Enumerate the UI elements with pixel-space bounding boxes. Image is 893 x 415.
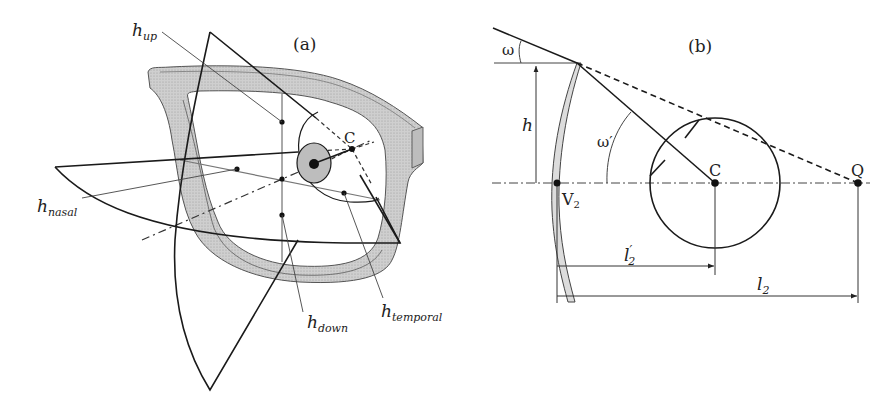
spectacle-frame xyxy=(148,66,423,283)
panel-b: (b) ω ω′ h C Q V2 l′2 l2 xyxy=(492,28,870,303)
omega-angle-arc xyxy=(519,41,521,63)
l2-label: l2 xyxy=(757,274,769,297)
refracted-ray xyxy=(577,63,715,183)
panel-a-label: (a) xyxy=(293,34,316,54)
point-q xyxy=(854,179,862,187)
point-q-label: Q xyxy=(851,161,864,180)
label-h-temporal: htemporal xyxy=(381,301,443,324)
l2-prime-label: l′2 xyxy=(624,244,635,268)
panel-a: (a) C hup hnasal hdown htemporal xyxy=(37,20,443,390)
label-h-nasal: hnasal xyxy=(37,196,78,219)
frame-temple-end xyxy=(412,127,423,168)
point-c-b xyxy=(711,179,719,187)
figure-canvas: (a) C hup hnasal hdown htemporal xyxy=(0,0,893,415)
omega-prime-label: ω′ xyxy=(597,133,613,151)
point-c-label-a: C xyxy=(344,129,355,147)
point-center xyxy=(279,176,284,181)
omega-label: ω xyxy=(502,41,514,59)
height-label: h xyxy=(522,115,533,135)
label-h-down: hdown xyxy=(307,312,348,335)
vertex-v2-label: V2 xyxy=(561,190,580,210)
point-c-label-b: C xyxy=(709,161,721,180)
label-h-up: hup xyxy=(132,20,157,43)
pupil-dot xyxy=(309,159,319,169)
panel-b-label: (b) xyxy=(688,36,712,56)
point-v2 xyxy=(554,180,561,187)
